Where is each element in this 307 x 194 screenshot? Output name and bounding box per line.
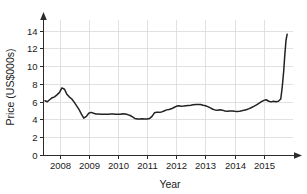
x-tick-label: 2015 — [254, 160, 275, 171]
y-axis-title: Price (US$000s) — [4, 48, 16, 125]
x-tick-label: 2009 — [79, 160, 100, 171]
x-tick-label: 2010 — [108, 160, 129, 171]
x-tick-label: 2012 — [166, 160, 187, 171]
x-tick-label: 2011 — [137, 160, 157, 171]
chart-canvas: 02468101214 2008200920102011201220132014… — [0, 0, 307, 194]
x-tick-label: 2013 — [195, 160, 216, 171]
y-tick-label: 12 — [27, 43, 38, 54]
x-axis: 20082009201020112012201320142015 — [44, 152, 303, 171]
x-axis-title: Year — [159, 178, 181, 190]
line-chart-figure: 02468101214 2008200920102011201220132014… — [0, 0, 307, 194]
y-tick-label: 2 — [32, 132, 37, 143]
x-tick-label: 2014 — [225, 160, 246, 171]
y-tick-label: 4 — [32, 114, 37, 125]
x-tick-label: 2008 — [50, 160, 71, 171]
y-tick-label: 14 — [27, 26, 38, 37]
y-tick-label: 10 — [27, 61, 38, 72]
y-tick-label: 0 — [32, 150, 37, 161]
y-tick-label: 8 — [32, 79, 37, 90]
y-tick-label: 6 — [32, 97, 37, 108]
